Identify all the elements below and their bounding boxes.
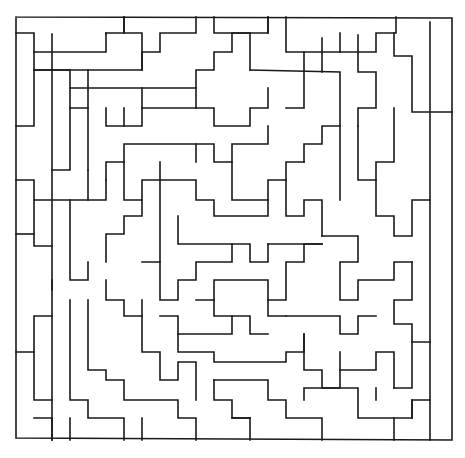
maze-wall-segment xyxy=(16,70,34,126)
maze-wall-segment xyxy=(214,380,250,440)
maze-wall-segment xyxy=(16,17,124,52)
maze-wall-segment xyxy=(394,33,452,112)
maze-wall-segment xyxy=(214,380,322,440)
maze-wall-segment xyxy=(178,334,304,362)
maze-wall-segment xyxy=(304,388,430,418)
maze-wall-segment xyxy=(286,17,396,52)
maze-wall-segment xyxy=(358,108,394,180)
maze-wall-segment xyxy=(250,70,340,162)
maze-wall-segment xyxy=(34,418,52,440)
maze-wall-segment xyxy=(196,244,322,300)
maze-wall-segment xyxy=(34,17,196,70)
maze-wall-segment xyxy=(106,108,124,126)
maze-wall-segment xyxy=(394,342,412,388)
maze-wall-segment xyxy=(268,300,286,316)
maze-wall-segment xyxy=(124,17,142,70)
maze-wall-segment xyxy=(124,108,142,126)
maze-wall-segment xyxy=(286,52,304,108)
maze-wall-segment xyxy=(106,280,196,400)
maze-wall-segment xyxy=(142,88,268,126)
maze-wall-segment xyxy=(52,108,70,170)
maze-wall-segment xyxy=(394,262,430,342)
maze-wall-segment xyxy=(70,200,88,280)
maze-wall-segment xyxy=(34,200,52,246)
maze-wall-segment xyxy=(304,334,340,388)
maze-wall-segment xyxy=(376,180,430,236)
maze-wall-segment xyxy=(178,216,232,244)
maze-wall-segment xyxy=(16,180,106,200)
maze-wall-segment xyxy=(340,352,394,388)
maze-wall-segment xyxy=(106,126,268,180)
maze-wall-segment xyxy=(106,200,142,262)
maze-wall-segment xyxy=(160,316,268,334)
maze-wall-segment xyxy=(286,180,322,236)
maze-wall-segment xyxy=(70,88,88,108)
maze-wall-segment xyxy=(286,316,376,334)
maze-wall-segment xyxy=(214,300,232,316)
maze-walls xyxy=(16,17,452,440)
maze-wall-segment xyxy=(322,236,412,300)
maze-wall-segment xyxy=(124,162,268,216)
maze-wall-segment xyxy=(142,162,160,262)
maze-wall-segment xyxy=(16,352,52,400)
maze-drawing xyxy=(0,0,465,458)
maze-border xyxy=(16,17,452,440)
maze-wall-segment xyxy=(358,35,376,126)
maze-wall-segment xyxy=(232,162,304,200)
maze-wall-segment xyxy=(34,316,52,352)
